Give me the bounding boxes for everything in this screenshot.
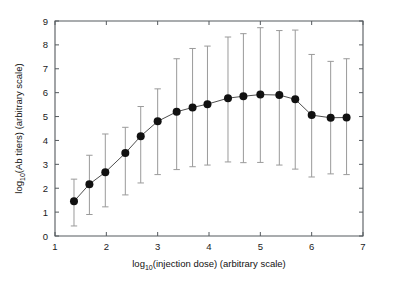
- data-point: [308, 111, 316, 119]
- data-point: [189, 103, 197, 111]
- x-tick-label: 7: [360, 241, 365, 252]
- y-tick-label: 9: [43, 16, 48, 27]
- x-axis-title: log10(injection dose) (arbitrary scale): [132, 258, 286, 271]
- y-tick-label: 0: [43, 231, 48, 242]
- figure-background: [0, 0, 394, 282]
- data-point: [121, 149, 129, 157]
- data-point: [256, 91, 264, 99]
- x-tick-label: 3: [155, 241, 160, 252]
- y-tick-label: 1: [43, 207, 48, 218]
- data-point: [154, 117, 162, 125]
- y-tick-label: 4: [43, 135, 48, 146]
- y-tick-label: 5: [43, 111, 48, 122]
- data-point: [85, 180, 93, 188]
- data-point: [137, 132, 145, 140]
- y-axis-title: log10(Ab titers) (arbitrary scale): [13, 63, 26, 193]
- y-tick-label: 2: [43, 183, 48, 194]
- data-point: [239, 92, 247, 100]
- data-point: [291, 95, 299, 103]
- x-tick-label: 1: [52, 241, 57, 252]
- x-tick-label: 5: [258, 241, 263, 252]
- y-tick-label: 6: [43, 87, 48, 98]
- x-tick-label: 2: [104, 241, 109, 252]
- dose-response-chart: 12345670123456789log10(injection dose) (…: [0, 0, 394, 282]
- y-tick-label: 3: [43, 159, 48, 170]
- data-point: [343, 114, 351, 122]
- x-tick-label: 6: [309, 241, 314, 252]
- figure-container: 12345670123456789log10(injection dose) (…: [0, 0, 394, 282]
- data-point: [203, 100, 211, 108]
- y-tick-label: 7: [43, 63, 48, 74]
- data-point: [327, 114, 335, 122]
- data-point: [70, 197, 78, 205]
- y-tick-label: 8: [43, 39, 48, 50]
- data-point: [101, 168, 109, 176]
- x-tick-label: 4: [206, 241, 211, 252]
- data-point: [173, 108, 181, 116]
- data-point: [224, 94, 232, 102]
- data-point: [275, 91, 283, 99]
